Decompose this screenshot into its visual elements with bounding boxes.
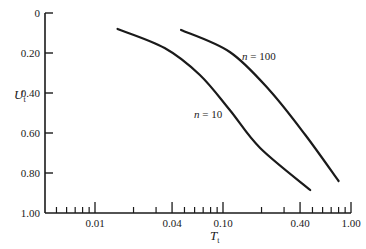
x-tick-label: 0.04 — [162, 217, 182, 229]
x-tick-label: 0.01 — [85, 217, 104, 229]
chart: 00.200.400.600.801.00 0.010.040.100.401.… — [0, 0, 366, 249]
y-tick-label: 1.00 — [21, 207, 41, 219]
x-tick-label: 1.00 — [341, 217, 361, 229]
curve-label-n100: n = 100 — [242, 50, 276, 62]
y-tick-label: 0.20 — [21, 47, 41, 59]
y-tick-label: 0.80 — [21, 167, 41, 179]
plot-area — [118, 29, 339, 190]
y-tick-label: 0 — [35, 7, 41, 19]
x-tick-label: 0.40 — [290, 217, 310, 229]
x-axis: 0.010.040.100.401.00 — [45, 202, 361, 229]
y-axis: 00.200.400.600.801.00 — [21, 7, 53, 219]
x-axis-title: Tt — [210, 228, 220, 245]
y-tick-label: 0.60 — [21, 127, 41, 139]
curve-label-n10: n = 10 — [194, 108, 223, 120]
